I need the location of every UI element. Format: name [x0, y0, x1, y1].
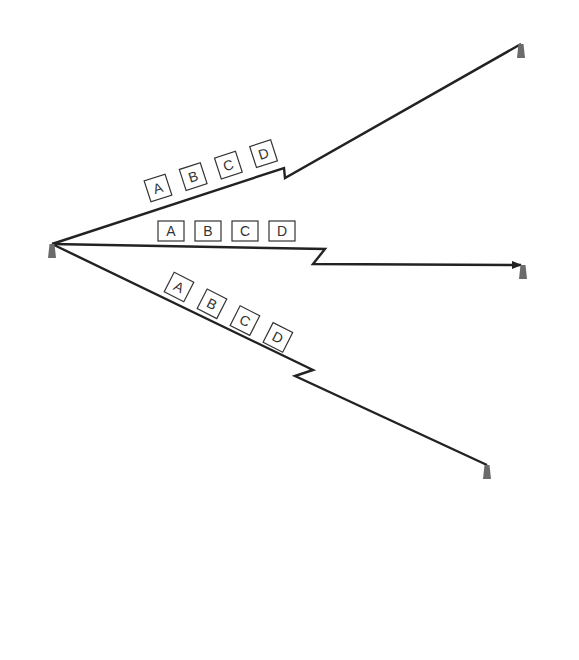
packet-a: A	[158, 221, 184, 241]
packet-b: B	[195, 221, 221, 241]
link-to-bottom-receiver	[52, 244, 487, 465]
receiver-tower-bottom-icon	[463, 465, 511, 633]
packet-group-bottom: A B C D	[164, 272, 292, 352]
packet-a: A	[164, 272, 194, 302]
broadcast-diagram: A B C D A B C D A B C D	[0, 0, 579, 660]
source-tower-icon	[28, 244, 76, 412]
svg-text:D: D	[277, 223, 287, 239]
link-to-top-receiver	[52, 44, 521, 244]
svg-text:C: C	[240, 223, 250, 239]
packet-a: A	[144, 174, 172, 202]
receiver-tower-top-icon	[497, 44, 545, 212]
link-to-middle-receiver	[52, 244, 521, 265]
packet-c: C	[232, 221, 258, 241]
packet-d: D	[250, 140, 278, 168]
packet-b: B	[197, 289, 227, 319]
packet-d: D	[269, 221, 295, 241]
packet-c: C	[215, 151, 243, 179]
svg-text:B: B	[203, 223, 212, 239]
packet-group-middle: A B C D	[158, 221, 295, 241]
packet-b: B	[179, 163, 207, 191]
receiver-tower-middle-icon	[499, 265, 547, 433]
svg-text:A: A	[166, 223, 176, 239]
